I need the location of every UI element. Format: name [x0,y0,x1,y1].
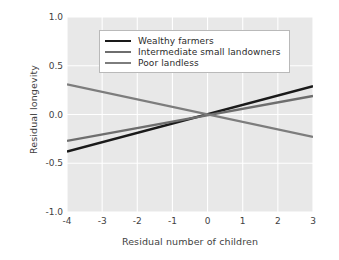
legend-item: Poor landless [105,57,281,68]
series-line [67,84,313,137]
legend-item-label: Intermediate small landowners [138,47,281,57]
series-lines [67,84,313,151]
series-line [67,96,313,141]
x-tick-label: 3 [298,216,328,226]
legend-item: Intermediate small landowners [105,46,281,57]
x-axis-label: Residual number of children [67,236,313,247]
x-tick-label: 1 [228,216,258,226]
y-tick-label: 0.0 [29,110,63,120]
legend-color-swatch [105,40,131,42]
x-tick-label: -3 [87,216,117,226]
x-tick-label: -2 [122,216,152,226]
x-tick-label: -1 [157,216,187,226]
legend-color-swatch [105,62,131,64]
legend-color-swatch [105,51,131,53]
x-axis-tick-labels: -4-3-2-10123 [0,216,339,232]
x-tick-label: -4 [52,216,82,226]
legend-item: Wealthy farmers [105,35,281,46]
x-tick-label: 0 [193,216,223,226]
x-tick-label: 2 [263,216,293,226]
y-tick-label: -0.5 [29,158,63,168]
legend-item-label: Wealthy farmers [138,36,214,46]
y-tick-label: 1.0 [29,12,63,22]
chart-figure: Residual longevity 1.00.50.0-0.5-1.0 -4-… [0,0,339,260]
y-tick-label: 0.5 [29,61,63,71]
legend-item-label: Poor landless [138,58,199,68]
chart-legend: Wealthy farmersIntermediate small landow… [99,30,290,73]
